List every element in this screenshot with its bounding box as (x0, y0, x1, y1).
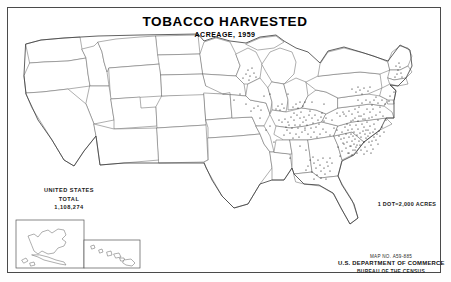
united-states-map (8, 8, 442, 274)
issuing-agency: U.S. DEPARTMENT OF COMMERCE (338, 260, 444, 267)
us-total-label-line1: UNITED STATES (21, 186, 117, 195)
dot-value-legend-text: 1 DOT=2,000 ACRES (371, 201, 443, 207)
map-number: MAP NO. A59-885 (338, 253, 444, 260)
hawaii-inset (84, 240, 140, 268)
credits-block: MAP NO. A59-885 U.S. DEPARTMENT OF COMME… (338, 253, 444, 275)
issuing-bureau: BUREAU OF THE CENSUS (338, 268, 444, 275)
alaska-inset (16, 220, 84, 268)
dot-value-legend: 1 DOT=2,000 ACRES (371, 201, 443, 207)
map-border-frame: TOBACCO HARVESTED ACREAGE, 1959 UNITED S… (7, 7, 441, 273)
map-sheet: TOBACCO HARVESTED ACREAGE, 1959 UNITED S… (0, 0, 451, 282)
us-total-value: 1,108,274 (21, 203, 117, 212)
us-total-label-line2: TOTAL (21, 195, 117, 204)
us-total-legend: UNITED STATES TOTAL 1,108,274 (21, 186, 117, 212)
